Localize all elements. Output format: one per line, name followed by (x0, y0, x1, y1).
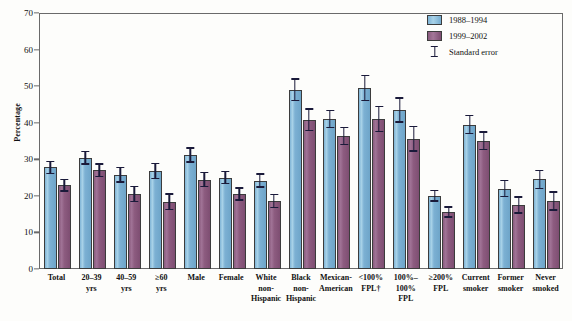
error-bar (268, 194, 281, 269)
y-tick-mark (34, 232, 39, 233)
bar-group (358, 13, 385, 269)
error-bar (407, 126, 420, 269)
error-bar (477, 131, 490, 269)
legend-label: Standard error (449, 47, 498, 57)
error-bar (547, 191, 560, 269)
error-bar (533, 170, 546, 269)
error-bar (463, 115, 476, 269)
error-bar (337, 127, 350, 269)
bar-group (323, 13, 350, 269)
error-bar (233, 187, 246, 269)
error-bar (198, 172, 211, 269)
error-bar (372, 106, 385, 269)
bar-chart: Percentage 010203040506070 Total20–39yrs… (0, 0, 572, 321)
error-bar (93, 163, 106, 269)
x-axis-label-line: Hispanic (278, 294, 325, 305)
legend-label: 1988–1994 (449, 15, 487, 25)
bar-group (149, 13, 176, 269)
y-tick-mark (34, 85, 39, 86)
y-tick-mark (34, 195, 39, 196)
legend-item-standard-error: Standard error (427, 46, 498, 57)
error-bar (114, 167, 127, 269)
error-bar (498, 180, 511, 269)
legend-swatch-blue-icon (427, 15, 442, 25)
bar-group (114, 13, 141, 269)
legend-item-1999: 1999–2002 (427, 30, 498, 41)
bar-group (533, 13, 560, 269)
error-bar-icon (427, 46, 442, 57)
error-bar (219, 171, 232, 269)
legend-label: 1999–2002 (449, 31, 487, 41)
legend-swatch-purple-icon (427, 31, 442, 41)
bar-group (393, 13, 420, 269)
error-bar (58, 179, 71, 269)
chart-legend: 1988–1994 1999–2002 Standard error (427, 14, 498, 62)
error-bar (254, 173, 267, 269)
error-bar (149, 163, 162, 269)
error-bar (442, 206, 455, 269)
error-bar (393, 97, 406, 269)
error-bar (512, 196, 525, 269)
y-tick-mark (34, 268, 39, 269)
y-tick-mark (34, 122, 39, 123)
x-axis-label: Neversmoked (522, 273, 569, 294)
bar-group (498, 13, 525, 269)
bar-group (184, 13, 211, 269)
error-bar (79, 151, 92, 269)
bar-group (289, 13, 316, 269)
bar-group (219, 13, 246, 269)
x-axis-label-line: Never (522, 273, 569, 284)
bar-group (44, 13, 71, 269)
error-bar (184, 147, 197, 269)
error-bar (428, 190, 441, 269)
error-bar (323, 110, 336, 269)
legend-item-1988: 1988–1994 (427, 14, 498, 25)
bar-group (79, 13, 106, 269)
y-tick-mark (34, 12, 39, 13)
x-axis-label-line: yrs (138, 284, 185, 295)
y-tick-mark (34, 159, 39, 160)
y-tick-mark (34, 49, 39, 50)
error-bar (289, 78, 302, 269)
error-bar (358, 75, 371, 269)
error-bar (163, 193, 176, 269)
x-axis-label-line: FPL (382, 294, 429, 305)
error-bar (44, 161, 57, 269)
error-bar (303, 108, 316, 269)
x-axis-label-line: smoked (522, 284, 569, 295)
bar-group (254, 13, 281, 269)
error-bar (128, 186, 141, 269)
